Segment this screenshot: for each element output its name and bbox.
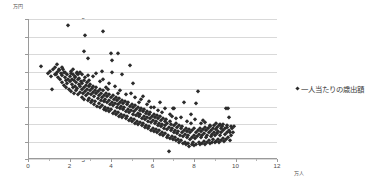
x-axis-tick-label: 4	[99, 162, 123, 169]
data-point	[182, 100, 186, 104]
data-point	[107, 81, 111, 85]
x-axis-tick-label: 8	[182, 162, 206, 169]
data-point	[110, 70, 114, 74]
data-point	[226, 106, 230, 110]
data-point	[110, 58, 114, 62]
plot-area	[28, 19, 277, 159]
data-point	[204, 120, 208, 124]
data-point	[49, 74, 53, 78]
data-point	[199, 121, 203, 125]
x-axis-tick-label: 0	[16, 162, 40, 169]
x-axis-tick-mark	[111, 159, 112, 162]
data-point	[228, 138, 232, 142]
data-point	[189, 112, 193, 116]
data-point	[51, 87, 55, 91]
data-point	[116, 51, 120, 55]
data-point	[167, 149, 171, 153]
data-point	[83, 33, 87, 37]
data-point	[163, 106, 167, 110]
data-point	[179, 115, 183, 119]
data-point	[172, 106, 176, 110]
x-axis-tick-label: 10	[224, 162, 248, 169]
x-axis-tick-mark	[153, 159, 154, 162]
chart-legend: 一人当たりの歳出額	[296, 84, 366, 95]
data-point	[113, 84, 117, 88]
data-point	[118, 88, 122, 92]
legend-item: 一人当たりの歳出額	[296, 84, 366, 95]
data-point	[87, 78, 91, 82]
x-axis-minor-tick	[90, 159, 91, 161]
data-point	[39, 64, 43, 68]
scatter-chart: 万円 万人 55.566.577.588.59 024681012 一人当たりの…	[0, 0, 366, 186]
data-point	[86, 56, 90, 60]
data-point	[124, 92, 128, 96]
legend-item-label: 一人当たりの歳出額	[301, 84, 364, 95]
data-point	[98, 79, 102, 83]
x-axis-unit-label: 万人	[294, 169, 304, 176]
x-axis-minor-tick	[173, 159, 174, 161]
data-point	[116, 91, 120, 95]
x-axis-tick-mark	[70, 159, 71, 162]
data-point	[175, 117, 179, 121]
x-axis-tick-mark	[236, 159, 237, 162]
x-axis-minor-tick	[215, 159, 216, 161]
data-point	[133, 96, 137, 100]
y-axis-unit-label: 万円	[13, 2, 23, 9]
data-point	[160, 110, 164, 114]
x-axis-tick-mark	[277, 159, 278, 162]
x-axis-tick-label: 12	[265, 162, 289, 169]
data-point	[233, 124, 237, 128]
data-point	[185, 119, 189, 123]
x-axis-tick-label: 6	[141, 162, 165, 169]
data-point	[196, 90, 200, 94]
data-point	[66, 23, 70, 27]
data-point	[158, 100, 162, 104]
x-axis-tick-mark	[28, 159, 29, 162]
x-axis-minor-tick	[132, 159, 133, 161]
data-point	[121, 72, 125, 76]
data-point	[131, 82, 135, 86]
data-point	[148, 99, 152, 103]
data-point	[232, 131, 236, 135]
x-axis-tick-label: 2	[58, 162, 82, 169]
data-point	[194, 101, 198, 105]
data-point	[208, 123, 212, 127]
data-point	[128, 63, 132, 67]
x-axis-minor-tick	[256, 159, 257, 161]
data-point	[106, 87, 110, 91]
x-axis-tick-mark	[194, 159, 195, 162]
data-point	[189, 121, 193, 125]
data-point	[95, 71, 99, 75]
data-point	[110, 51, 114, 55]
data-point	[227, 115, 231, 119]
data-point	[129, 91, 133, 95]
data-point	[56, 62, 60, 66]
data-point	[53, 72, 57, 76]
data-point	[83, 75, 87, 79]
legend-diamond-marker-icon	[295, 86, 299, 90]
data-points-layer	[28, 19, 277, 159]
data-point	[193, 117, 197, 121]
x-axis-minor-tick	[49, 159, 50, 161]
data-point	[100, 69, 104, 73]
data-point	[101, 77, 105, 81]
data-point	[82, 49, 86, 53]
data-point	[101, 29, 105, 33]
